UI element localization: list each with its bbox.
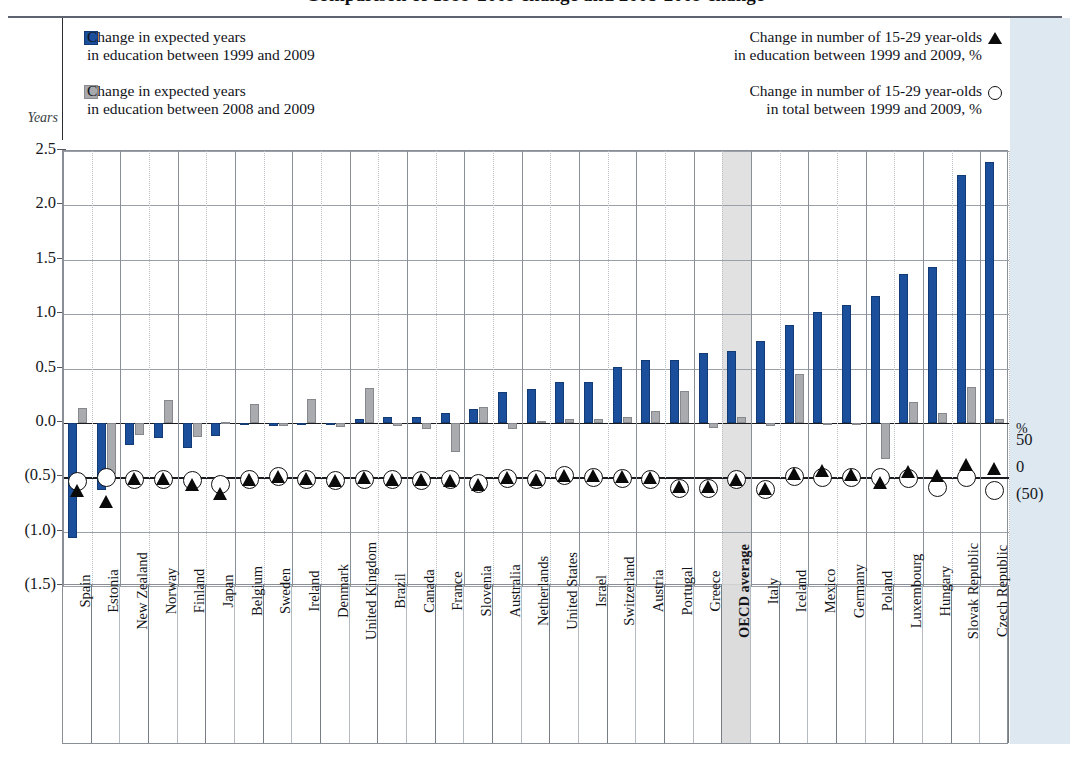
marker-triangle-australia: [500, 471, 514, 484]
bar-grey-iceland: [795, 374, 804, 423]
plot-inner: [63, 151, 1007, 584]
category-cell-ireland: Ireland: [292, 585, 321, 743]
legend-blue-line1: Change in expected years: [87, 28, 315, 46]
bar-grey-italy: [766, 423, 775, 426]
column-separator-4: [178, 151, 179, 586]
category-cell-japan: Japan: [206, 585, 235, 743]
column-separator-3: [149, 151, 151, 586]
category-cell-israel: Israel: [579, 585, 608, 743]
legend-entry-triangle: Change in number of 15-29 year-olds in e…: [734, 28, 982, 63]
right-axis-panel: [1010, 18, 1070, 744]
column-separator-14: [464, 151, 465, 586]
category-cell-iceland: Iceland: [780, 585, 809, 743]
marker-triangle-belgium: [242, 473, 256, 486]
bar-grey-france: [451, 423, 460, 452]
bar-grey-ireland: [307, 399, 316, 423]
category-cell-finland: Finland: [178, 585, 207, 743]
column-separator-18: [579, 151, 580, 586]
column-separator-15: [493, 151, 495, 586]
marker-triangle-luxembourg: [901, 465, 915, 478]
column-separator-25: [780, 151, 782, 586]
column-separator-28: [866, 151, 867, 586]
column-separator-0: [63, 151, 64, 586]
bar-blue-slovenia: [469, 409, 478, 423]
bar-grey-greece: [709, 423, 718, 428]
bar-blue-italy: [756, 341, 765, 423]
bar-grey-belgium: [250, 404, 259, 422]
category-cell-hungary: Hungary: [923, 585, 952, 743]
category-cell-brazil: Brazil: [378, 585, 407, 743]
bar-grey-united-states: [565, 419, 574, 423]
chart-title-strip: Comparison of 1999-2009 change and 2008-…: [0, 0, 1070, 14]
bar-grey-germany: [852, 423, 861, 425]
category-cell-netherlands: Netherlands: [522, 585, 551, 743]
bar-grey-japan: [221, 422, 230, 424]
marker-triangle-austria: [643, 471, 657, 484]
legend-cir-line2: in total between 1999 and 2009, %: [749, 100, 982, 118]
legend-tri-line1: Change in number of 15-29 year-olds: [734, 28, 982, 46]
legend-triangle-icon: [988, 32, 1002, 44]
bar-blue-united-states: [555, 382, 564, 423]
marker-triangle-greece: [701, 480, 715, 493]
header-rule: [8, 16, 1062, 18]
category-cell-luxembourg: Luxembourg: [894, 585, 923, 743]
bar-grey-luxembourg: [909, 402, 918, 423]
marker-triangle-slovak-republic: [959, 458, 973, 471]
legend-entry-circle: Change in number of 15-29 year-olds in t…: [749, 82, 982, 117]
bar-blue-australia: [498, 392, 507, 422]
plot-area: [62, 150, 1008, 585]
column-separator-23: [722, 151, 724, 586]
category-cell-france: France: [436, 585, 465, 743]
gridline-y-0.5: [63, 369, 1009, 370]
column-separator-24: [751, 151, 752, 586]
category-axis: SpainEstoniaNew ZealandNorwayFinlandJapa…: [62, 585, 1008, 744]
category-cell-united-states: United States: [550, 585, 579, 743]
bar-blue-brazil: [383, 417, 392, 422]
bar-blue-japan: [211, 423, 220, 436]
category-cell-canada: Canada: [407, 585, 436, 743]
y-tick-n0.5n: (0.5): [4, 465, 56, 485]
category-cell-czech-republic: Czech Republic: [980, 585, 1009, 743]
bar-grey-switzerland: [623, 417, 632, 422]
bar-blue-hungary: [928, 267, 937, 423]
chart-legend: Change in expected years in education be…: [62, 20, 1008, 138]
column-separator-33: [1009, 151, 1011, 586]
legend-entry-blue: Change in expected years in education be…: [87, 28, 315, 63]
bar-grey-spain: [78, 408, 87, 423]
category-cell-greece: Greece: [694, 585, 723, 743]
column-separator-1: [92, 151, 94, 586]
category-cell-austria: Austria: [636, 585, 665, 743]
marker-triangle-italy: [758, 482, 772, 495]
bar-blue-ireland: [297, 423, 306, 425]
bar-blue-mexico: [813, 312, 822, 423]
category-cell-united-kingdom: United Kingdom: [350, 585, 379, 743]
category-cell-denmark: Denmark: [321, 585, 350, 743]
category-cell-slovak-republic: Slovak Republic: [952, 585, 981, 743]
category-cell-sweden: Sweden: [264, 585, 293, 743]
marker-circle-czech-republic: [985, 481, 1004, 500]
marker-triangle-oecd-average: [729, 473, 743, 486]
column-separator-19: [608, 151, 610, 586]
bar-grey-new-zealand: [135, 423, 144, 435]
category-cell-poland: Poland: [866, 585, 895, 743]
marker-triangle-estonia: [99, 495, 113, 508]
marker-triangle-new-zealand: [127, 472, 141, 485]
column-separator-2: [120, 151, 121, 586]
column-separator-31: [952, 151, 954, 586]
column-separator-13: [436, 151, 438, 586]
gridline-y-2.5: [63, 151, 1009, 152]
bar-blue-greece: [699, 353, 708, 423]
marker-triangle-netherlands: [529, 473, 543, 486]
column-separator-7: [264, 151, 266, 586]
bar-grey-slovenia: [479, 407, 488, 423]
category-cell-new-zealand: New Zealand: [120, 585, 149, 743]
column-separator-22: [694, 151, 695, 586]
marker-triangle-brazil: [385, 473, 399, 486]
marker-triangle-hungary: [930, 469, 944, 482]
category-label: Czech Republic: [994, 545, 1011, 637]
category-cell-slovenia: Slovenia: [464, 585, 493, 743]
bar-grey-united-kingdom: [365, 388, 374, 423]
bar-blue-poland: [871, 296, 880, 423]
bar-blue-norway: [154, 423, 163, 438]
gridline-y-0.0: [63, 423, 1009, 425]
